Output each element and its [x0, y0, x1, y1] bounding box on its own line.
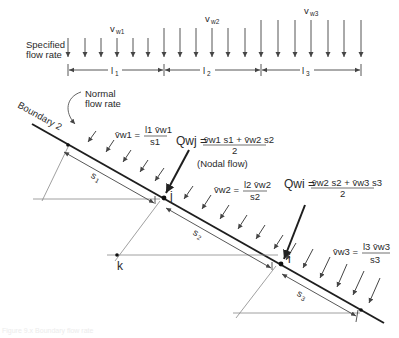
figure-caption: Figure 9.x Boundary flow rate: [2, 327, 93, 334]
normal-flow-arrows: [88, 131, 380, 303]
node-left: [66, 143, 70, 147]
normal-flow-rate-label: Normal flow rate: [85, 88, 121, 109]
svg-text:v̄w1 s1 + v̄w2 s2: v̄w1 s1 + v̄w2 s2: [204, 134, 274, 145]
svg-text:3: 3: [306, 70, 310, 77]
normal-flow-pointer: [68, 92, 81, 124]
node-i-label: i: [288, 252, 291, 266]
svg-text:l: l: [302, 65, 304, 76]
equation-vbar-w3: v̄w3 = l3 v̄w3 s3: [333, 241, 390, 265]
v-w1-label: v w1: [110, 23, 125, 35]
svg-text:w2: w2: [210, 18, 220, 25]
svg-text:2: 2: [207, 70, 211, 77]
svg-text:flow rate: flow rate: [85, 98, 121, 109]
svg-text:v̄w3 =: v̄w3 =: [333, 246, 359, 257]
node-k-label: k: [117, 259, 124, 273]
node-k: [115, 253, 119, 257]
svg-text:Qwj =: Qwj =: [176, 134, 207, 148]
l3-label: l 3: [302, 65, 310, 77]
svg-text:2: 2: [340, 188, 345, 199]
node-j-label: j: [169, 189, 173, 203]
svg-text:v: v: [110, 23, 115, 34]
nodal-flow-arrow-i: [284, 205, 305, 259]
specified-flow-rate-label: Specified flow rate: [26, 39, 65, 60]
s3-label: s 3: [295, 287, 307, 302]
svg-text:2: 2: [232, 145, 237, 156]
svg-text:v: v: [205, 13, 210, 24]
boundary-line: [32, 124, 384, 323]
svg-text:l2 v̄w2: l2 v̄w2: [244, 179, 271, 190]
svg-text:l: l: [203, 65, 205, 76]
svg-text:v̄w2 =: v̄w2 =: [214, 184, 240, 195]
svg-text:l1 v̄w1: l1 v̄w1: [145, 124, 172, 135]
v-w3-label: v w3: [304, 5, 319, 17]
svg-text:v: v: [304, 5, 309, 16]
node-j: [162, 196, 167, 201]
boundary-label: Boundary 2: [16, 99, 64, 132]
equation-q-wj: Qwj = v̄w1 s1 + v̄w2 s2 2 (Nodal flow): [176, 134, 274, 169]
svg-text:Qwi =: Qwi =: [284, 177, 315, 191]
svg-text:l3 v̄w3: l3 v̄w3: [363, 241, 390, 252]
svg-text:flow rate: flow rate: [26, 49, 62, 60]
svg-text:l: l: [111, 65, 113, 76]
node-right: [359, 308, 363, 312]
l1-label: l 1: [111, 65, 119, 77]
equation-vbar-w1: v̄w1 = l1 v̄w1 s1: [115, 124, 172, 147]
svg-text:v̄w2 s2 + v̄w3 s3: v̄w2 s2 + v̄w3 s3: [312, 177, 382, 188]
svg-text:(Nodal flow): (Nodal flow): [197, 158, 248, 169]
svg-text:w3: w3: [309, 10, 319, 17]
diagram-canvas: Specified flow rate v w1 v w2 v w3 l 1 l…: [0, 0, 399, 338]
svg-text:s1: s1: [150, 136, 160, 147]
svg-text:s3: s3: [370, 254, 380, 265]
v-w2-label: v w2: [205, 13, 220, 25]
node-i: [279, 262, 284, 267]
svg-text:Boundary 2: Boundary 2: [16, 99, 64, 132]
svg-text:1: 1: [115, 70, 119, 77]
nodal-flow-arrow-j: [166, 150, 189, 193]
svg-text:w1: w1: [115, 28, 125, 35]
s2-label: s 2: [191, 226, 203, 241]
svg-text:s2: s2: [250, 191, 260, 202]
svg-text:v̄w1 =: v̄w1 =: [115, 129, 141, 140]
equation-vbar-w2: v̄w2 = l2 v̄w2 s2: [214, 179, 271, 202]
equation-q-wi: Qwi = v̄w2 s2 + v̄w3 s3 2: [284, 177, 382, 199]
l2-label: l 2: [203, 65, 211, 77]
